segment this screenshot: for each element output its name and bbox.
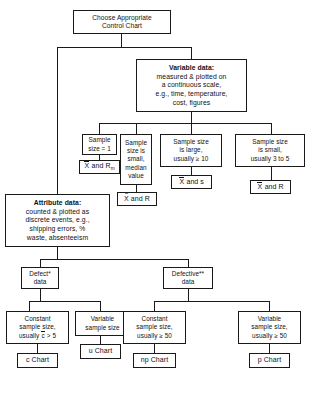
node-defective-constant-line1: Constant xyxy=(141,315,167,323)
node-sample-large-line3: usually ≥ 10 xyxy=(174,155,209,163)
node-attribute-data-line2: discrete events, e.g., xyxy=(25,216,89,225)
node-defective-data-line2: data xyxy=(182,278,195,286)
node-chart-x-and-rm-label: X and Rm xyxy=(84,162,114,173)
connector-to-variable xyxy=(191,47,192,59)
node-chart-x-and-rm[interactable]: X and Rm xyxy=(79,160,120,174)
node-variable-data-heading: Variable data: xyxy=(169,64,214,73)
node-sample-median-line1: Sample xyxy=(125,139,147,147)
defect-constant-post: > 5 xyxy=(45,332,56,339)
node-chart-xbar-and-r[interactable]: X and R xyxy=(250,180,291,194)
node-defect-constant[interactable]: Constant sample size, usually c > 5 xyxy=(6,311,69,344)
connector-small-to-chart xyxy=(271,167,272,180)
node-variable-data[interactable]: Variable data: measured & plotted on a c… xyxy=(136,59,247,112)
node-defect-constant-line3: usually c > 5 xyxy=(19,332,56,340)
connector-top-bus xyxy=(57,47,191,48)
node-defective-variable-line1: Variable xyxy=(258,315,281,323)
node-variable-data-line2: a continuous scale, xyxy=(162,81,221,90)
node-root-line2: Control Chart xyxy=(102,22,142,30)
x-tilde-glyph: X xyxy=(124,195,129,204)
connector-variable-stem xyxy=(191,112,192,123)
node-defective-constant[interactable]: Constant sample size, usually ≥ 50 xyxy=(123,311,186,344)
node-sample-small-3-5[interactable]: Sample size is small, usually 3 to 5 xyxy=(235,134,305,167)
connector-defective-bus xyxy=(154,301,269,302)
chart-x-rm-sub: m xyxy=(111,166,115,171)
chart-xtilde-r-post: and R xyxy=(129,195,150,202)
connector-attribute-stem xyxy=(57,247,58,259)
node-sample-small-3-5-line3: usually 3 to 5 xyxy=(251,155,290,163)
connector-defect-branch xyxy=(40,259,41,267)
node-chart-xbar-and-r-label: X and R xyxy=(257,183,283,192)
connector-defective-branch xyxy=(188,259,189,267)
connector-defect-left xyxy=(29,301,30,311)
node-sample-size-1-line1: Sample xyxy=(88,136,110,144)
node-sample-median-line2: size is xyxy=(127,147,145,155)
node-defect-variable-line1: Variable xyxy=(91,315,114,323)
node-root[interactable]: Choose Appropriate Control Chart xyxy=(73,10,171,34)
node-defect-constant-line2: sample size, xyxy=(19,323,55,331)
control-chart-selection-flowchart: Choose Appropriate Control Chart Variabl… xyxy=(0,0,313,398)
defect-constant-pre: usually xyxy=(19,332,41,339)
connector-np-to-chart xyxy=(154,344,155,353)
x-bar-glyph-r: X xyxy=(257,183,262,192)
node-sample-large[interactable]: Sample size is large, usually ≥ 10 xyxy=(160,134,222,167)
connector-defect-bus xyxy=(29,301,100,302)
chart-x-rm-post: and R xyxy=(90,162,111,169)
node-attribute-data-heading: Attribute data: xyxy=(34,199,81,208)
node-chart-xbar-and-s[interactable]: X and s xyxy=(171,175,212,189)
connector-root-stem xyxy=(121,34,122,47)
node-chart-xtilde-and-r[interactable]: X and R xyxy=(117,192,157,206)
node-defect-constant-line1: Constant xyxy=(24,315,50,323)
node-attribute-data-line1: counted & plotted as xyxy=(26,208,89,217)
connector-variable-branch-1 xyxy=(99,123,100,134)
node-chart-xbar-and-s-label: X and s xyxy=(179,178,204,187)
node-chart-p-label: p Chart xyxy=(258,356,281,365)
node-chart-np-label: np Chart xyxy=(141,356,168,365)
node-defective-data-line1: Defective** xyxy=(172,270,204,278)
node-variable-data-line3: e.g., time, temperature, xyxy=(156,90,228,99)
connector-defect-stem xyxy=(40,289,41,301)
node-sample-small-3-5-line1: Sample size xyxy=(252,138,288,146)
connector-variable-branch-3 xyxy=(191,123,192,134)
node-defective-variable[interactable]: Variable sample size, usually ≥ 50 xyxy=(238,311,301,344)
node-sample-large-line1: Sample size xyxy=(173,138,209,146)
connector-variable-branch-4 xyxy=(271,123,272,134)
node-root-line1: Choose Appropriate xyxy=(92,14,151,22)
node-defect-data-line1: Defect* xyxy=(29,270,50,278)
node-sample-median[interactable]: Sample size is small, median value xyxy=(120,134,152,185)
connector-median-to-chart xyxy=(136,185,137,192)
connector-p-to-chart xyxy=(269,344,270,353)
x-bar-glyph-s: X xyxy=(179,178,184,187)
x-bar-glyph: X xyxy=(84,162,89,171)
node-defective-data[interactable]: Defective** data xyxy=(163,267,213,289)
node-sample-size-1[interactable]: Sample size = 1 xyxy=(82,134,117,155)
connector-variable-branch-2 xyxy=(136,123,137,134)
c-bar-glyph: c xyxy=(41,332,45,340)
node-sample-median-line4: median xyxy=(125,164,146,172)
connector-large-to-chart xyxy=(191,167,192,175)
node-variable-data-line1: measured & plotted on xyxy=(157,73,227,82)
connector-variable-bus xyxy=(99,123,271,124)
node-defect-variable[interactable]: Variable sample size xyxy=(75,311,130,336)
node-chart-u-label: u Chart xyxy=(89,347,112,356)
node-chart-p[interactable]: p Chart xyxy=(249,353,290,368)
node-defective-variable-line3: usually ≥ 50 xyxy=(252,332,287,340)
chart-xbar-s-post: and s xyxy=(184,178,204,185)
node-sample-large-line2: is large, xyxy=(180,146,203,154)
connector-defective-right xyxy=(269,301,270,311)
connector-to-attribute xyxy=(57,47,58,194)
node-variable-data-line4: cost, figures xyxy=(173,99,211,108)
connector-defect-right xyxy=(100,301,101,311)
node-chart-np[interactable]: np Chart xyxy=(133,353,176,368)
node-attribute-data-line3: shipping errors, % xyxy=(29,225,85,234)
connector-attribute-bus xyxy=(40,259,188,260)
node-attribute-data-line4: waste, absenteeism xyxy=(27,234,88,243)
node-sample-small-3-5-line2: is small, xyxy=(258,146,282,154)
node-chart-c[interactable]: c Chart xyxy=(17,353,58,368)
node-defect-data-line2: data xyxy=(34,278,47,286)
node-chart-u[interactable]: u Chart xyxy=(80,344,121,359)
node-defective-variable-line2: sample size, xyxy=(251,323,287,331)
connector-defective-left xyxy=(154,301,155,311)
node-attribute-data[interactable]: Attribute data: counted & plotted as dis… xyxy=(5,194,110,247)
chart-xbar-r-post: and R xyxy=(263,183,284,190)
node-defect-data[interactable]: Defect* data xyxy=(21,267,59,289)
